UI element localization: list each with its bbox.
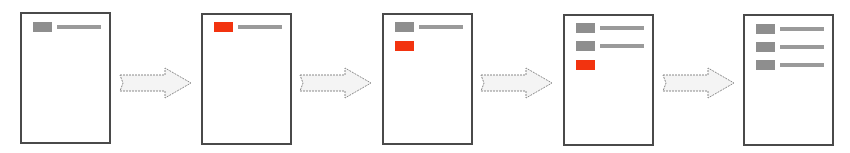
item-row [33, 22, 103, 32]
item-row [576, 23, 646, 33]
text-line [238, 25, 282, 29]
item-row [756, 60, 826, 70]
page-step-1 [20, 12, 111, 144]
item-row [576, 60, 646, 70]
item-row [756, 24, 826, 34]
existing-item-block [395, 22, 414, 32]
item-row [214, 22, 284, 32]
text-line [600, 26, 644, 30]
text-line [600, 44, 644, 48]
item-row [395, 22, 465, 32]
page-step-3 [382, 13, 473, 145]
existing-item-block [576, 41, 595, 51]
item-row [576, 41, 646, 51]
text-line [57, 25, 101, 29]
item-row [395, 41, 465, 51]
page-step-5 [743, 14, 834, 146]
new-item-block [395, 41, 414, 51]
text-line [780, 27, 824, 31]
existing-item-block [33, 22, 52, 32]
text-line [419, 25, 463, 29]
text-line [780, 45, 824, 49]
page-step-4 [563, 14, 654, 146]
existing-item-block [756, 24, 775, 34]
new-item-block [576, 60, 595, 70]
new-item-block [214, 22, 233, 32]
existing-item-block [756, 42, 775, 52]
right-arrow-icon [119, 67, 193, 99]
existing-item-block [756, 60, 775, 70]
page-step-2 [201, 13, 292, 145]
right-arrow-icon [299, 67, 373, 99]
item-row [756, 42, 826, 52]
existing-item-block [576, 23, 595, 33]
text-line [780, 63, 824, 67]
right-arrow-icon [662, 67, 736, 99]
right-arrow-icon [480, 67, 554, 99]
